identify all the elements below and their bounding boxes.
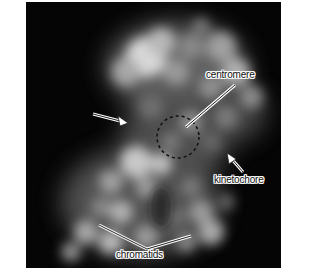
chromatids-label: chromatids [116, 249, 163, 260]
chromosome-micrograph: centromere kinetochore chromatids [26, 2, 281, 268]
centromere-label: centromere [206, 69, 255, 80]
micrograph-image [26, 2, 281, 268]
kinetochore-label: kinetochore [214, 174, 264, 185]
